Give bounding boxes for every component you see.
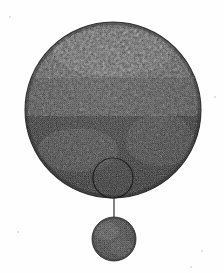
- stray-speck: [190, 266, 192, 268]
- figure-root: [0, 0, 224, 273]
- figure-canvas: [0, 0, 224, 273]
- detail-marker-circle: [93, 158, 133, 198]
- stray-speck: [17, 231, 19, 233]
- stray-speck: [201, 250, 203, 252]
- stray-speck: [214, 96, 216, 98]
- stray-speck: [9, 16, 11, 18]
